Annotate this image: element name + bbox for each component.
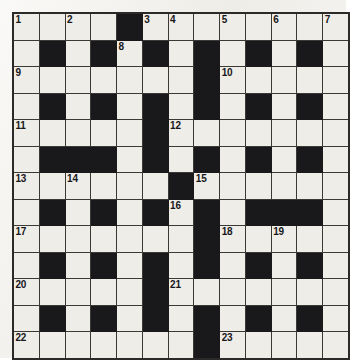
numbered-cell[interactable]: 2 [65,13,91,40]
white-cell[interactable] [323,93,349,120]
white-cell[interactable] [297,67,323,94]
white-cell[interactable] [65,40,91,67]
white-cell[interactable] [323,332,349,359]
white-cell[interactable] [220,120,246,147]
white-cell[interactable] [271,173,297,200]
white-cell[interactable] [39,226,65,253]
white-cell[interactable] [65,332,91,359]
white-cell[interactable] [117,93,143,120]
numbered-cell[interactable]: 13 [13,173,39,200]
white-cell[interactable] [245,279,271,306]
white-cell[interactable] [39,173,65,200]
white-cell[interactable] [245,173,271,200]
numbered-cell[interactable]: 18 [220,226,246,253]
numbered-cell[interactable]: 15 [194,173,220,200]
white-cell[interactable] [323,120,349,147]
numbered-cell[interactable]: 8 [117,40,143,67]
white-cell[interactable] [271,67,297,94]
white-cell[interactable] [65,199,91,226]
white-cell[interactable] [117,67,143,94]
numbered-cell[interactable]: 11 [13,120,39,147]
white-cell[interactable] [220,40,246,67]
white-cell[interactable] [168,146,194,173]
white-cell[interactable] [245,67,271,94]
numbered-cell[interactable]: 21 [168,279,194,306]
white-cell[interactable] [220,199,246,226]
white-cell[interactable] [220,305,246,332]
white-cell[interactable] [65,226,91,253]
white-cell[interactable] [117,146,143,173]
white-cell[interactable] [13,93,39,120]
white-cell[interactable] [245,226,271,253]
white-cell[interactable] [271,252,297,279]
white-cell[interactable] [39,67,65,94]
crossword-grid[interactable]: 1234567891011121314151617181920212223 [12,12,350,360]
numbered-cell[interactable]: 19 [271,226,297,253]
white-cell[interactable] [271,332,297,359]
white-cell[interactable] [13,199,39,226]
white-cell[interactable] [91,173,117,200]
white-cell[interactable] [271,146,297,173]
white-cell[interactable] [117,199,143,226]
numbered-cell[interactable]: 5 [220,13,246,40]
white-cell[interactable] [168,332,194,359]
white-cell[interactable] [65,252,91,279]
white-cell[interactable] [65,279,91,306]
white-cell[interactable] [271,120,297,147]
white-cell[interactable] [271,93,297,120]
white-cell[interactable] [168,67,194,94]
white-cell[interactable] [220,146,246,173]
numbered-cell[interactable]: 14 [65,173,91,200]
numbered-cell[interactable]: 7 [323,13,349,40]
white-cell[interactable] [117,332,143,359]
white-cell[interactable] [297,226,323,253]
white-cell[interactable] [194,13,220,40]
white-cell[interactable] [168,40,194,67]
white-cell[interactable] [323,226,349,253]
white-cell[interactable] [13,146,39,173]
white-cell[interactable] [323,67,349,94]
white-cell[interactable] [297,279,323,306]
white-cell[interactable] [91,226,117,253]
white-cell[interactable] [65,67,91,94]
white-cell[interactable] [220,252,246,279]
white-cell[interactable] [168,226,194,253]
white-cell[interactable] [91,120,117,147]
white-cell[interactable] [142,67,168,94]
white-cell[interactable] [39,279,65,306]
white-cell[interactable] [39,120,65,147]
white-cell[interactable] [13,40,39,67]
white-cell[interactable] [65,120,91,147]
white-cell[interactable] [271,305,297,332]
numbered-cell[interactable]: 10 [220,67,246,94]
white-cell[interactable] [297,332,323,359]
numbered-cell[interactable]: 22 [13,332,39,359]
white-cell[interactable] [39,13,65,40]
white-cell[interactable] [297,13,323,40]
white-cell[interactable] [220,173,246,200]
numbered-cell[interactable]: 17 [13,226,39,253]
numbered-cell[interactable]: 4 [168,13,194,40]
white-cell[interactable] [323,305,349,332]
white-cell[interactable] [39,332,65,359]
white-cell[interactable] [91,13,117,40]
numbered-cell[interactable]: 9 [13,67,39,94]
white-cell[interactable] [194,279,220,306]
white-cell[interactable] [194,120,220,147]
white-cell[interactable] [65,305,91,332]
numbered-cell[interactable]: 1 [13,13,39,40]
white-cell[interactable] [168,305,194,332]
white-cell[interactable] [245,120,271,147]
white-cell[interactable] [117,226,143,253]
white-cell[interactable] [142,226,168,253]
numbered-cell[interactable]: 23 [220,332,246,359]
white-cell[interactable] [323,252,349,279]
white-cell[interactable] [117,252,143,279]
white-cell[interactable] [65,93,91,120]
white-cell[interactable] [271,40,297,67]
white-cell[interactable] [91,332,117,359]
numbered-cell[interactable]: 6 [271,13,297,40]
white-cell[interactable] [117,305,143,332]
white-cell[interactable] [323,173,349,200]
numbered-cell[interactable]: 20 [13,279,39,306]
